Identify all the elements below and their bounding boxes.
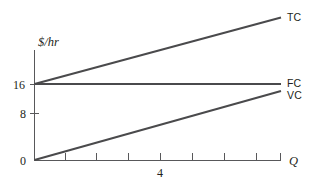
series-label-tc: TC — [287, 11, 302, 23]
x-tick-label-4: 4 — [157, 166, 163, 180]
cost-curves-chart-figure: $/hr Q 16 8 0 4 TC FC VC — [0, 0, 317, 181]
series-label-fc: FC — [287, 77, 302, 89]
y-tick-label-16: 16 — [13, 78, 25, 92]
y-tick-label-0: 0 — [20, 154, 26, 168]
chart-canvas: $/hr Q 16 8 0 4 TC FC VC — [0, 0, 317, 181]
y-tick-label-8: 8 — [20, 107, 26, 121]
series-label-vc: VC — [287, 89, 302, 101]
y-axis-title: $/hr — [38, 35, 59, 49]
x-axis-title: Q — [289, 154, 298, 168]
variable-cost-line — [35, 91, 282, 160]
total-cost-line — [35, 18, 282, 85]
